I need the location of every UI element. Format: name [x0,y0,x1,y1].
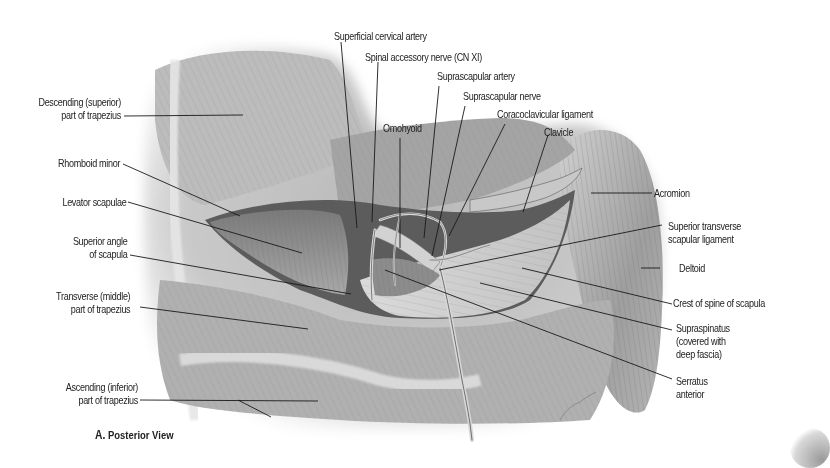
label-superficial-cervical-artery: Superficial cervical artery [334,30,427,43]
page-edge-shadow [790,428,830,468]
label-superior-angle-scapula: Superior angle of scapula [72,235,127,261]
label-omohyoid: Omohyoid [383,122,422,135]
label-clavicle: Clavicle [544,126,573,139]
label-coracoclavicular-ligament: Coracoclavicular ligament [497,108,593,121]
label-suprascapular-artery: Suprascapular artery [437,70,515,83]
label-acromion: Acromion [654,187,690,200]
label-spinal-accessory-nerve: Spinal accessory nerve (CN XI) [365,51,482,64]
label-levator-scapulae: Levator scapulae [62,196,126,209]
label-supraspinatus: Supraspinatus (covered with deep fascia) [676,322,730,361]
label-ascending-trapezius: Ascending (inferior) part of trapezius [66,381,138,407]
label-suprascapular-nerve: Suprascapular nerve [463,90,541,103]
caption-text: Posterior View [108,429,174,441]
label-rhomboid-minor: Rhomboid minor [58,157,120,170]
label-transverse-trapezius: Transverse (middle) part of trapezius [56,290,130,316]
label-deltoid: Deltoid [679,262,705,275]
caption-letter: A. [95,428,105,442]
label-serratus-anterior: Serratus anterior [676,375,708,401]
label-crest-spine-scapula: Crest of spine of scapula [673,297,765,310]
figure-caption: A. Posterior View [95,428,174,442]
label-superior-transverse-scapular-ligament: Superior transverse scapular ligament [668,220,741,246]
label-descending-trapezius: Descending (superior) part of trapezius [38,96,121,122]
